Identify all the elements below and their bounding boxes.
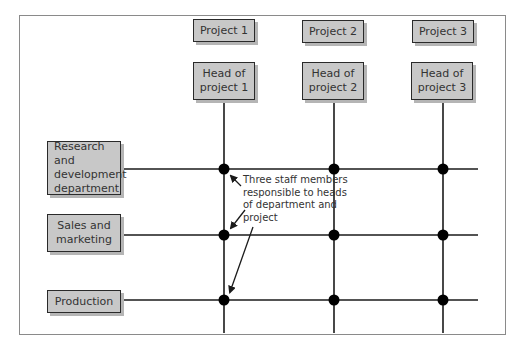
arrow-icon (231, 176, 241, 186)
project-2-box: Project 2 (302, 20, 364, 43)
head-of-project-3-box: Head of project 3 (411, 62, 473, 100)
project-3-label: Project 3 (419, 25, 467, 39)
head-of-project-1-box: Head of project 1 (193, 62, 255, 100)
project-1-box: Project 1 (193, 19, 255, 42)
staff-node (219, 230, 230, 241)
arrow-icon (230, 227, 253, 292)
staff-node (438, 295, 449, 306)
sales-marketing-box: Sales and marketing (47, 214, 121, 252)
production-box: Production (47, 290, 121, 313)
project-1-label: Project 1 (200, 24, 248, 38)
head-of-project-1-label: Head of project 1 (200, 67, 249, 95)
staff-node (219, 295, 230, 306)
staff-node (329, 164, 340, 175)
staff-node (219, 164, 230, 175)
project-2-label: Project 2 (309, 25, 357, 39)
production-label: Production (55, 295, 114, 309)
staff-node (329, 230, 340, 241)
sales-marketing-label: Sales and marketing (56, 219, 112, 247)
head-of-project-3-label: Head of project 3 (418, 67, 467, 95)
rnd-department-box: Research and development department (47, 141, 121, 195)
staff-annotation: Three staff members responsible to heads… (243, 174, 353, 224)
staff-node (329, 295, 340, 306)
rnd-department-label: Research and development department (54, 140, 127, 196)
project-3-box: Project 3 (412, 20, 474, 43)
head-of-project-2-label: Head of project 2 (309, 67, 358, 95)
staff-node (438, 164, 449, 175)
head-of-project-2-box: Head of project 2 (302, 62, 364, 100)
staff-node (438, 230, 449, 241)
